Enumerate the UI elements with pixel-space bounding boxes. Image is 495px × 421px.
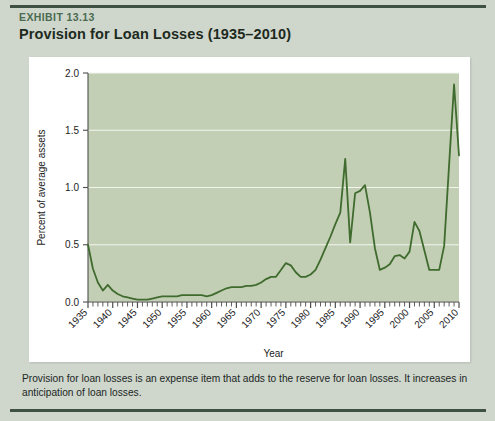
exhibit-header: EXHIBIT 13.13 Provision for Loan Losses … <box>19 11 469 43</box>
svg-text:2010: 2010 <box>437 306 461 330</box>
svg-text:1940: 1940 <box>91 306 115 330</box>
svg-text:Percent of average assets: Percent of average assets <box>36 129 47 245</box>
svg-text:2005: 2005 <box>412 306 436 330</box>
svg-text:2000: 2000 <box>387 306 411 330</box>
svg-text:1980: 1980 <box>289 306 313 330</box>
x-axis: 1935194019451950195519601965197019751980… <box>66 302 461 330</box>
svg-text:1970: 1970 <box>239 306 263 330</box>
svg-text:1965: 1965 <box>214 306 238 330</box>
svg-text:0.5: 0.5 <box>65 239 79 250</box>
svg-text:1.5: 1.5 <box>65 125 79 136</box>
svg-text:0.0: 0.0 <box>65 297 79 308</box>
svg-text:1995: 1995 <box>363 306 387 330</box>
chart-panel: 0.00.51.01.52.0 193519401945195019551960… <box>29 57 470 362</box>
bottom-divider <box>10 409 486 412</box>
line-chart: 0.00.51.01.52.0 193519401945195019551960… <box>29 57 470 362</box>
svg-text:1935: 1935 <box>66 306 90 330</box>
svg-text:1955: 1955 <box>165 306 189 330</box>
svg-text:Year: Year <box>263 348 284 359</box>
page-title: Provision for Loan Losses (1935–2010) <box>19 25 469 43</box>
exhibit-caption: Provision for loan losses is an expense … <box>22 372 478 399</box>
y-axis: 0.00.51.01.52.0 <box>65 68 88 308</box>
svg-text:1945: 1945 <box>115 306 139 330</box>
svg-text:2.0: 2.0 <box>65 68 79 79</box>
svg-text:1950: 1950 <box>140 306 164 330</box>
svg-text:1960: 1960 <box>190 306 214 330</box>
svg-text:1975: 1975 <box>264 306 288 330</box>
svg-text:1985: 1985 <box>313 306 337 330</box>
top-divider <box>10 5 486 8</box>
svg-text:1.0: 1.0 <box>65 182 79 193</box>
exhibit-card: EXHIBIT 13.13 Provision for Loan Losses … <box>0 0 495 421</box>
exhibit-label: EXHIBIT 13.13 <box>19 11 469 24</box>
svg-text:1990: 1990 <box>338 306 362 330</box>
